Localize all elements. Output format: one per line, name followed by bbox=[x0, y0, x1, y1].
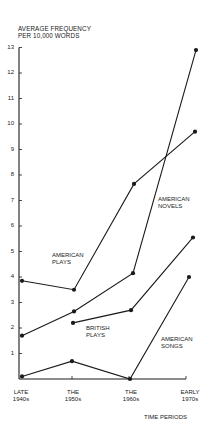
data-point-marker bbox=[128, 377, 132, 381]
label-line: SONGS bbox=[161, 343, 193, 350]
series-label-american-plays: AMERICAN PLAYS bbox=[52, 252, 84, 266]
data-point-marker bbox=[191, 235, 195, 239]
label-line: PLAYS bbox=[52, 259, 84, 266]
label-line: BRITISH bbox=[86, 325, 110, 332]
data-point-marker bbox=[194, 48, 198, 52]
series-label-british-plays: BRITISH PLAYS bbox=[86, 325, 110, 339]
label-line: AMERICAN bbox=[161, 336, 193, 343]
label-line: AMERICAN bbox=[158, 196, 190, 203]
series-line-american-novels bbox=[22, 50, 196, 336]
line-chart-plot bbox=[0, 0, 212, 436]
data-point-marker bbox=[72, 309, 76, 313]
label-line: PLAYS bbox=[86, 332, 110, 339]
label-line: NOVELS bbox=[158, 203, 190, 210]
x-axis-title: TIME PERIODS bbox=[144, 414, 187, 420]
series-label-american-novels: AMERICAN NOVELS bbox=[158, 196, 190, 210]
series-label-american-songs: AMERICAN SONGS bbox=[161, 336, 193, 350]
data-point-marker bbox=[20, 279, 24, 283]
data-point-marker bbox=[72, 288, 76, 292]
data-point-marker bbox=[20, 374, 24, 378]
label-line: AMERICAN bbox=[52, 252, 84, 259]
data-point-marker bbox=[71, 321, 75, 325]
data-point-marker bbox=[132, 182, 136, 186]
data-point-marker bbox=[193, 130, 197, 134]
data-point-marker bbox=[131, 271, 135, 275]
data-point-marker bbox=[187, 275, 191, 279]
data-point-marker bbox=[129, 308, 133, 312]
data-point-marker bbox=[70, 359, 74, 363]
data-point-marker bbox=[20, 334, 24, 338]
